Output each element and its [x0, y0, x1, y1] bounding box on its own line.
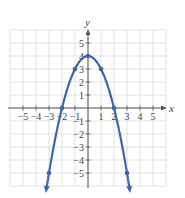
x-tick-label: 5: [151, 111, 156, 122]
x-tick-label: −3: [44, 111, 55, 122]
y-tick-label: −4: [73, 155, 84, 166]
data-point: [125, 171, 130, 176]
x-axis-label: x: [168, 102, 174, 114]
x-tick-label: −4: [31, 111, 42, 122]
data-point: [73, 67, 78, 72]
y-tick-label: 5: [79, 38, 84, 49]
x-tick-label: 1: [99, 111, 104, 122]
y-tick-label: 1: [79, 90, 84, 101]
x-tick-label: 3: [125, 111, 130, 122]
y-tick-label: −2: [73, 129, 84, 140]
x-tick-label: 4: [138, 111, 143, 122]
curve-arrow-icon: [44, 186, 50, 193]
data-point: [86, 54, 91, 59]
x-tick-label: −5: [18, 111, 29, 122]
y-axis-label: y: [84, 16, 90, 28]
y-tick-label: 2: [79, 77, 84, 88]
data-point: [99, 67, 104, 72]
y-tick-label: −3: [73, 142, 84, 153]
data-point: [60, 106, 65, 111]
y-tick-label: −1: [73, 116, 84, 127]
data-point: [47, 171, 52, 176]
parabola-graph: −5−4−3−2−11234554321−1−2−3−4−5 x y: [0, 0, 185, 198]
y-tick-label: −5: [73, 168, 84, 179]
axes: [8, 29, 167, 188]
data-point: [112, 106, 117, 111]
curve-arrow-icon: [126, 186, 132, 193]
y-tick-label: 3: [79, 64, 84, 75]
